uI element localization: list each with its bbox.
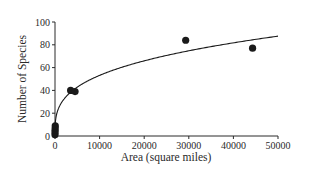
- x-tick-label: 30000: [176, 140, 201, 151]
- y-axis-title: Number of Species: [16, 34, 29, 123]
- y-axis: 020406080100: [35, 17, 55, 142]
- data-point: [71, 88, 78, 95]
- x-axis: 01000020000300004000050000: [53, 136, 291, 151]
- y-tick-label: 60: [40, 62, 50, 73]
- data-points: [51, 37, 256, 139]
- x-tick-label: 50000: [266, 140, 291, 151]
- y-tick-label: 100: [35, 17, 50, 28]
- x-tick-label: 10000: [87, 140, 112, 151]
- x-tick-label: 0: [53, 140, 58, 151]
- data-point: [249, 45, 256, 52]
- y-tick-label: 0: [45, 131, 50, 142]
- fitted-curve: [55, 36, 278, 136]
- y-tick-label: 40: [40, 85, 50, 96]
- x-tick-label: 40000: [221, 140, 246, 151]
- y-tick-label: 80: [40, 39, 50, 50]
- data-point: [52, 122, 59, 129]
- x-axis-title: Area (square miles): [121, 151, 212, 164]
- data-point: [182, 37, 189, 44]
- y-tick-label: 20: [40, 108, 50, 119]
- species-area-chart: 020406080100 01000020000300004000050000 …: [0, 0, 310, 176]
- x-tick-label: 20000: [132, 140, 157, 151]
